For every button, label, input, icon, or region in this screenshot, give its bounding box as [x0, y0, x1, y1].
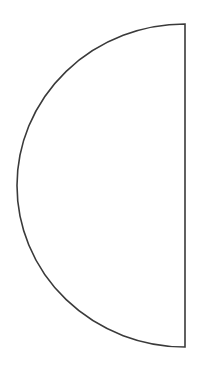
half-circle-figure	[0, 0, 202, 370]
half-circle-outline	[17, 24, 185, 347]
diagram-canvas	[0, 0, 202, 370]
